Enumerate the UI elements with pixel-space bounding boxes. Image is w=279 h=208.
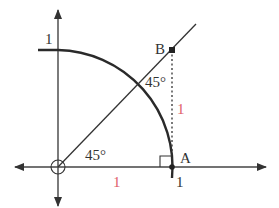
- angle-origin-label: 45°: [85, 147, 106, 163]
- point-b-dot: [169, 47, 175, 53]
- point-a-label: A: [180, 150, 191, 166]
- segment-ab-length: 1: [177, 101, 185, 117]
- segment-oa-length: 1: [113, 174, 121, 190]
- angle-top-label: 45°: [145, 74, 166, 90]
- unit-circle-diagram: 1 B 45° 1 A 45° 1 1: [0, 0, 279, 208]
- point-b-label: B: [155, 41, 165, 57]
- point-a-dot: [169, 164, 175, 170]
- y-axis-one-label: 1: [45, 31, 53, 47]
- diagonal-line: [58, 24, 196, 167]
- x-axis-one-label: 1: [176, 174, 184, 190]
